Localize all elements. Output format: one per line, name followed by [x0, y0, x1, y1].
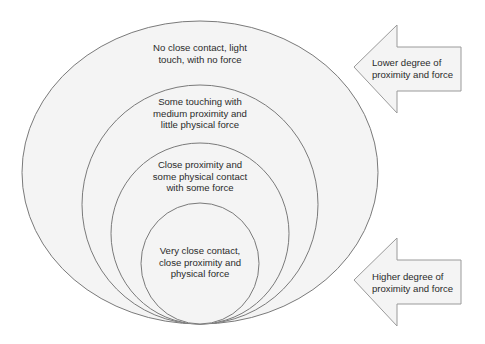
label-line: close proximity and: [130, 257, 270, 269]
label-line: Close proximity and: [120, 159, 280, 171]
ring-outer-label: No close contact, light touch, with no f…: [120, 42, 280, 65]
label-line: some physical contact: [120, 171, 280, 183]
label-line: Lower degree of: [372, 57, 482, 69]
arrow-upper-label: Lower degree of proximity and force: [372, 57, 482, 80]
ring-inner-label: Very close contact, close proximity and …: [130, 245, 270, 280]
ring-third-label: Close proximity and some physical contac…: [120, 159, 280, 194]
label-line: touch, with no force: [120, 54, 280, 66]
label-line: Higher degree of: [372, 271, 482, 283]
label-line: proximity and force: [372, 283, 482, 295]
label-line: proximity and force: [372, 69, 482, 81]
label-line: with some force: [120, 182, 280, 194]
label-line: little physical force: [120, 119, 280, 131]
label-line: physical force: [130, 268, 270, 280]
label-line: Some touching with: [120, 96, 280, 108]
ring-second-label: Some touching with medium proximity and …: [120, 96, 280, 131]
label-line: Very close contact,: [130, 245, 270, 257]
label-line: No close contact, light: [120, 42, 280, 54]
arrow-lower-label: Higher degree of proximity and force: [372, 271, 482, 294]
label-line: medium proximity and: [120, 108, 280, 120]
